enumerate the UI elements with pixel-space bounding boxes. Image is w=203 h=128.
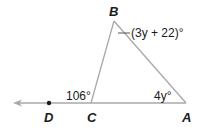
angle-a-label: 4y° (154, 89, 172, 103)
triangle-diagram: B D C A 106° 4y° (3y + 22)° (0, 0, 203, 128)
side-cb (91, 21, 114, 103)
angle-b-label: (3y + 22)° (131, 26, 184, 40)
label-a: A (181, 110, 191, 125)
angle-c-exterior-label: 106° (66, 89, 91, 103)
label-b: B (109, 4, 118, 19)
label-c: C (87, 110, 97, 125)
label-d: D (44, 110, 54, 125)
point-d-dot (47, 101, 51, 105)
